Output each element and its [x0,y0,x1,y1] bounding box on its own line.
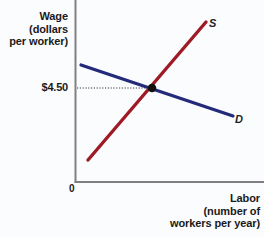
origin-label: 0 [69,183,75,196]
x-axis-title-line3: workers per year) [170,217,260,229]
equilibrium-point-marker [148,84,157,93]
x-axis-title-line2: (number of [204,205,260,217]
y-axis-title-line1: Wage [39,10,68,22]
y-axis-title-line3: per worker) [9,35,68,47]
supply-curve-label: S [209,17,216,30]
y-axis-title-line2: (dollars [29,23,68,35]
supply-demand-chart: Wage (dollars per worker) Labor (number … [0,0,264,238]
demand-curve-label: D [235,113,243,126]
x-axis-title: Labor (number of workers per year) [154,192,260,230]
demand-curve [81,65,233,116]
x-axis-title-line1: Labor [230,192,260,204]
supply-curve [88,22,206,160]
y-axis-title: Wage (dollars per worker) [9,10,68,48]
y-axis-tick-label-price: $4.50 [41,81,68,94]
